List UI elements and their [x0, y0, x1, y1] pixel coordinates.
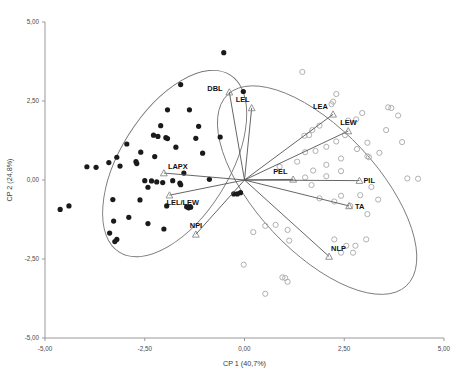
y-axis-title: CP 2 (24,8%) — [5, 158, 14, 201]
data-point-filled — [196, 124, 201, 129]
data-point-filled — [151, 133, 156, 138]
data-point-filled — [221, 50, 226, 55]
data-point-filled — [160, 180, 165, 185]
vector-label-dbl: DBL — [207, 84, 223, 93]
vector-label-ta: TA — [355, 202, 365, 211]
vector-label-lea: LEA — [313, 102, 328, 111]
data-point-filled — [218, 134, 223, 139]
data-point-filled — [126, 215, 131, 220]
y-tick-label: 5,00 — [27, 18, 40, 25]
vector-label-npi: NPI — [190, 221, 202, 230]
y-tick-label: 0,00 — [27, 176, 40, 183]
vector-label-nlp: NLP — [331, 244, 346, 253]
data-point-filled — [187, 107, 192, 112]
y-tick-label: 2,50 — [27, 97, 40, 104]
data-point-filled — [112, 239, 117, 244]
x-axis-title: CP 1 (40,7%) — [223, 359, 266, 368]
y-tick-label: -5,00 — [25, 334, 40, 341]
data-point-filled — [137, 197, 142, 202]
x-tick-label: 2,50 — [338, 345, 351, 352]
plot-canvas: DBLLELLEALEWPELPILTANLPLAPXLEL/LEWNPI -5… — [0, 0, 454, 372]
data-point-filled — [241, 89, 246, 94]
data-point-filled — [170, 178, 175, 183]
loading-vector-pil — [245, 180, 360, 181]
data-point-filled — [111, 218, 116, 223]
vector-label-pil: PIL — [363, 176, 375, 185]
x-tick-label: -2,50 — [138, 345, 153, 352]
data-point-filled — [161, 226, 166, 231]
data-point-filled — [93, 165, 98, 170]
data-point-filled — [117, 163, 122, 168]
data-point-filled — [149, 178, 154, 183]
data-point-filled — [145, 185, 150, 190]
vector-label-lapx: LAPX — [168, 162, 188, 171]
data-point-filled — [145, 221, 150, 226]
data-point-filled — [142, 178, 147, 183]
plot-background — [0, 0, 454, 372]
x-tick-label: 5,00 — [438, 345, 451, 352]
data-point-filled — [173, 145, 178, 150]
data-point-filled — [124, 141, 129, 146]
data-point-filled — [193, 136, 198, 141]
data-point-filled — [107, 230, 112, 235]
pca-biplot-figure: DBLLELLEALEWPELPILTANLPLAPXLEL/LEWNPI -5… — [0, 0, 454, 372]
vector-label-lel-lew: LEL/LEW — [166, 198, 198, 207]
x-tick-label: 0,00 — [238, 345, 251, 352]
y-tick-label: -2,50 — [25, 255, 40, 262]
data-point-filled — [110, 197, 115, 202]
x-tick-label: -5,00 — [38, 345, 53, 352]
data-point-filled — [114, 155, 119, 160]
data-point-filled — [154, 179, 159, 184]
data-point-filled — [106, 160, 111, 165]
data-point-filled — [238, 190, 243, 195]
data-point-filled — [200, 151, 205, 156]
data-point-filled — [133, 159, 138, 164]
data-point-filled — [158, 123, 163, 128]
data-point-filled — [58, 207, 63, 212]
data-point-filled — [152, 154, 157, 159]
data-point-filled — [138, 150, 143, 155]
vector-label-pel: PEL — [273, 167, 288, 176]
vector-label-lew: LEW — [340, 118, 356, 127]
data-point-filled — [165, 136, 170, 141]
data-point-filled — [178, 182, 183, 187]
data-point-filled — [165, 107, 170, 112]
data-point-filled — [66, 203, 71, 208]
data-point-filled — [84, 164, 89, 169]
data-point-filled — [178, 82, 183, 87]
data-point-filled — [155, 134, 160, 139]
vector-label-lel: LEL — [236, 95, 250, 104]
